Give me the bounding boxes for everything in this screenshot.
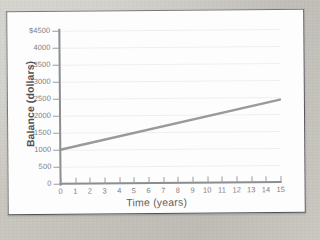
plot-area	[59, 29, 280, 184]
y-axis-tick-label: 2500	[34, 95, 51, 103]
y-axis-tick-label: 1500	[34, 129, 51, 137]
x-axis-tick-label: 9	[185, 187, 201, 195]
x-axis-tick-label: 11	[214, 186, 230, 194]
x-axis-tick-label: 8	[170, 187, 186, 195]
y-axis-ticks	[7, 10, 303, 12]
x-axis-tick-label: 7	[155, 187, 171, 195]
x-axis-tick	[105, 177, 106, 183]
x-axis-tick	[149, 177, 150, 183]
x-axis-title: Time (years)	[9, 195, 305, 209]
x-axis-tick-label: 2	[82, 187, 98, 195]
x-axis-ticks	[7, 10, 303, 12]
x-axis-tick	[193, 177, 194, 183]
x-axis-tick-label: 1	[67, 188, 83, 196]
y-axis-tick	[53, 167, 60, 168]
x-axis-tick	[266, 176, 267, 182]
x-axis-tick	[237, 176, 238, 182]
x-axis-tick-label: 15	[273, 186, 289, 194]
x-axis-tick	[75, 178, 76, 184]
x-axis-tick	[222, 176, 223, 182]
y-axis-tick-labels: 05001000150020002500300035004000$4500	[7, 10, 303, 12]
y-axis-tick-label: 500	[39, 163, 52, 171]
series-line-balance	[59, 29, 280, 184]
y-axis-tick	[52, 48, 59, 49]
x-axis-tick-label: 3	[97, 187, 113, 195]
x-axis-tick-label: 14	[258, 186, 274, 194]
y-axis-tick	[53, 150, 60, 151]
x-axis-tick-labels: 0123456789101112131415	[7, 10, 303, 12]
x-axis-tick-label: 12	[229, 186, 245, 194]
y-axis-tick	[53, 116, 60, 117]
x-axis-tick-label: 6	[141, 187, 157, 195]
x-axis-tick-label: 10	[199, 187, 215, 195]
chart-panel-inner: 05001000150020002500300035004000$4500 01…	[7, 10, 305, 214]
y-axis-tick-label: 4000	[33, 44, 50, 52]
x-axis-tick	[61, 178, 62, 184]
x-axis-line	[60, 181, 282, 185]
y-axis-title: Balance (dollars)	[23, 39, 36, 169]
x-axis-tick	[281, 176, 282, 182]
x-axis-tick	[178, 177, 179, 183]
y-axis-tick	[54, 184, 61, 185]
x-axis-tick	[207, 177, 208, 183]
x-axis-tick	[163, 177, 164, 183]
x-axis-tick	[90, 178, 91, 184]
y-axis-tick	[53, 133, 60, 134]
y-axis-tick	[53, 82, 60, 83]
x-axis-tick-label: 13	[243, 186, 259, 194]
y-axis-tick	[52, 31, 59, 32]
x-axis-tick-label: 0	[53, 188, 69, 196]
y-axis-tick-label: 2000	[34, 112, 51, 120]
y-axis-tick	[53, 99, 60, 100]
x-axis-tick	[251, 176, 252, 182]
chart-figure-panel: 05001000150020002500300035004000$4500 01…	[6, 9, 306, 215]
x-axis-tick-label: 5	[126, 187, 142, 195]
y-axis-tick-label: 0	[47, 180, 51, 188]
y-axis-tick-label: 3500	[34, 61, 51, 69]
x-axis-tick	[119, 177, 120, 183]
x-axis-tick-label: 4	[111, 187, 127, 195]
y-axis-tick-label: $4500	[29, 27, 50, 35]
y-axis-tick-label: 3000	[34, 78, 51, 86]
y-axis-tick	[53, 65, 60, 66]
y-axis-tick-label: 1000	[34, 146, 51, 154]
x-axis-tick	[134, 177, 135, 183]
